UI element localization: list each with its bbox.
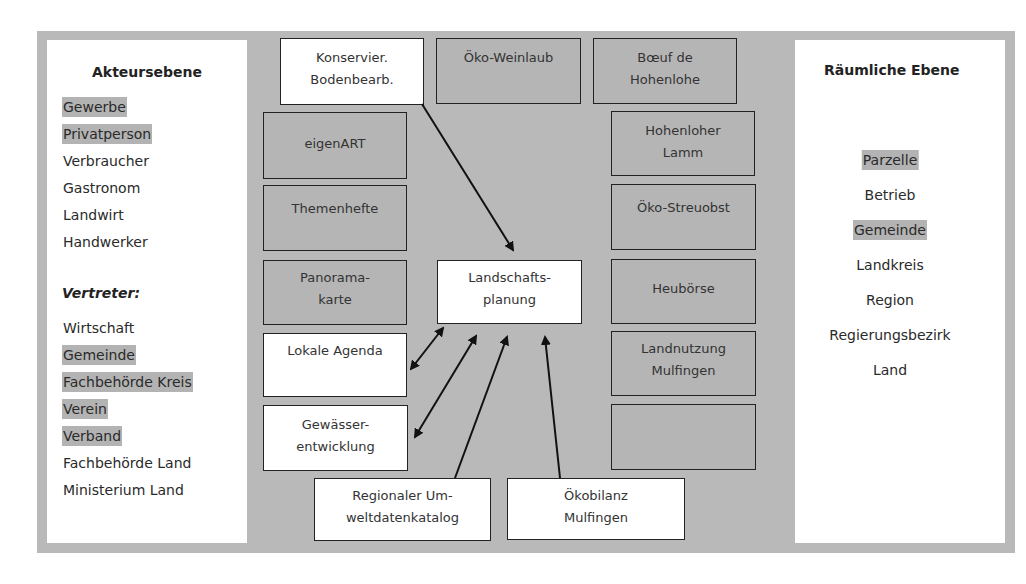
connection-arrows bbox=[0, 0, 1026, 584]
arrow-konservier-to-landschaftsplanung bbox=[422, 104, 513, 250]
arrow-lokale-agenda-landschaftsplanung bbox=[411, 328, 443, 369]
arrow-oekobilanz-to-landschaftsplanung bbox=[545, 337, 560, 478]
